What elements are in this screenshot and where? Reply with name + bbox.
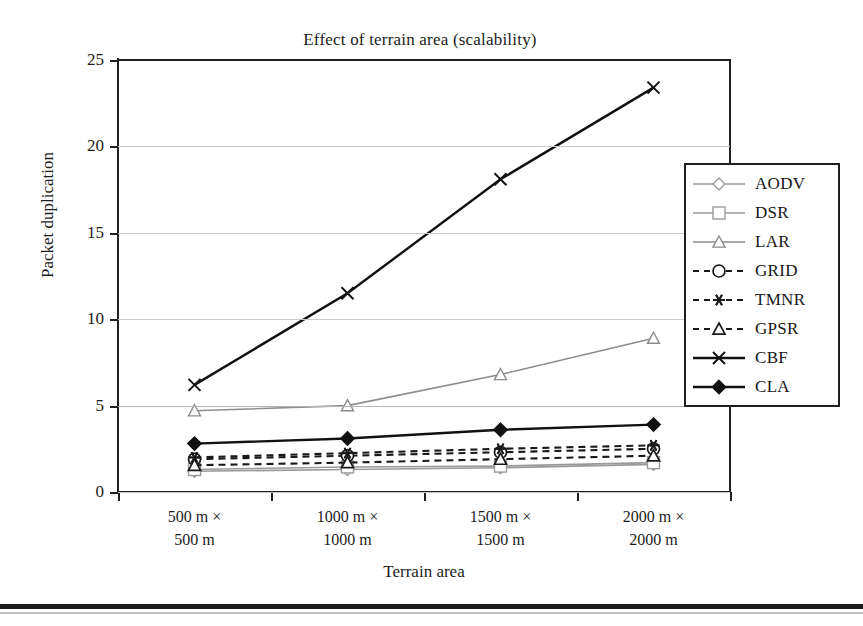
legend-item-gpsr[interactable]: GPSR bbox=[686, 314, 838, 343]
y-tick-mark-25 bbox=[110, 60, 118, 62]
series-line-lar bbox=[195, 338, 654, 411]
x-tick-label-3: 2000 m ×2000 m bbox=[574, 505, 734, 551]
legend-item-cbf[interactable]: CBF bbox=[686, 343, 838, 372]
legend-item-dsr[interactable]: DSR bbox=[686, 198, 838, 227]
legend-item-lar[interactable]: LAR bbox=[686, 227, 838, 256]
legend-key-grid bbox=[691, 260, 747, 282]
x-tick-mark-2 bbox=[424, 492, 426, 501]
legend-label-aodv: AODV bbox=[747, 174, 805, 194]
legend-item-aodv[interactable]: AODV bbox=[686, 169, 838, 198]
legend-key-cla bbox=[691, 376, 747, 398]
legend-key-gpsr bbox=[691, 318, 747, 340]
legend-item-cla[interactable]: CLA bbox=[686, 372, 838, 401]
x-tick-label-1-line-1: 1000 m bbox=[268, 528, 428, 551]
series-canvas bbox=[118, 60, 730, 492]
chart-figure: Effect of terrain area (scalability) Pac… bbox=[0, 0, 863, 604]
x-tick-label-1-line-0: 1000 m × bbox=[268, 505, 428, 528]
y-tick-mark-5 bbox=[110, 406, 118, 408]
x-tick-label-0-line-1: 500 m bbox=[115, 528, 275, 551]
marker-diamond-filled bbox=[713, 380, 726, 393]
chart-title: Effect of terrain area (scalability) bbox=[110, 30, 730, 50]
series-cla bbox=[188, 418, 660, 450]
y-tick-label-5: 5 bbox=[62, 396, 104, 416]
marker-diamond-filled bbox=[188, 437, 201, 450]
gridline-15 bbox=[118, 233, 730, 234]
x-tick-label-2-line-0: 1500 m × bbox=[421, 505, 581, 528]
gridline-0 bbox=[118, 492, 730, 493]
marker-triangle-open bbox=[713, 323, 725, 334]
legend-item-tmnr[interactable]: TMNR bbox=[686, 285, 838, 314]
legend-label-lar: LAR bbox=[747, 232, 790, 252]
legend-label-tmnr: TMNR bbox=[747, 290, 805, 310]
x-tick-label-2-line-1: 1500 m bbox=[421, 528, 581, 551]
y-tick-mark-20 bbox=[110, 146, 118, 148]
x-tick-label-1: 1000 m ×1000 m bbox=[268, 505, 428, 551]
legend-key-lar bbox=[691, 231, 747, 253]
x-tick-label-0-line-0: 500 m × bbox=[115, 505, 275, 528]
y-tick-mark-15 bbox=[110, 233, 118, 235]
marker-diamond-filled bbox=[494, 423, 507, 436]
marker-square-open bbox=[713, 207, 725, 219]
legend-label-cla: CLA bbox=[747, 377, 790, 397]
x-tick-label-0: 500 m ×500 m bbox=[115, 505, 275, 551]
series-line-cbf bbox=[195, 88, 654, 385]
page-bottom-rule bbox=[0, 604, 863, 609]
x-tick-mark-0 bbox=[118, 492, 120, 501]
marker-diamond-open bbox=[713, 178, 725, 190]
marker-cross bbox=[495, 173, 507, 185]
marker-asterisk bbox=[713, 294, 725, 304]
legend-key-aodv bbox=[691, 173, 747, 195]
legend-key-dsr bbox=[691, 202, 747, 224]
gridline-20 bbox=[118, 146, 730, 147]
x-tick-mark-1 bbox=[271, 492, 273, 501]
marker-cross bbox=[342, 287, 354, 299]
legend-key-cbf bbox=[691, 347, 747, 369]
legend-label-cbf: CBF bbox=[747, 348, 788, 368]
legend-item-grid[interactable]: GRID bbox=[686, 256, 838, 285]
y-tick-label-20: 20 bbox=[62, 136, 104, 156]
legend-label-gpsr: GPSR bbox=[747, 319, 799, 339]
x-tick-label-2: 1500 m ×1500 m bbox=[421, 505, 581, 551]
y-tick-label-0: 0 bbox=[62, 482, 104, 502]
plot-area bbox=[118, 60, 730, 492]
legend-label-dsr: DSR bbox=[747, 203, 789, 223]
x-tick-label-3-line-1: 2000 m bbox=[574, 528, 734, 551]
page-bottom-rule-secondary bbox=[0, 612, 863, 614]
x-tick-mark-3 bbox=[577, 492, 579, 501]
y-axis-title: Packet duplication bbox=[38, 105, 58, 325]
marker-cross bbox=[648, 82, 660, 94]
legend-key-tmnr bbox=[691, 289, 747, 311]
y-tick-mark-0 bbox=[110, 492, 118, 494]
marker-diamond-filled bbox=[647, 418, 660, 431]
gridline-10 bbox=[118, 319, 730, 320]
x-tick-mark-4 bbox=[730, 492, 732, 501]
x-axis-title: Terrain area bbox=[118, 562, 730, 582]
gridline-5 bbox=[118, 406, 730, 407]
series-cbf bbox=[189, 82, 660, 391]
y-tick-mark-10 bbox=[110, 319, 118, 321]
x-tick-label-3-line-0: 2000 m × bbox=[574, 505, 734, 528]
series-line-cla bbox=[195, 425, 654, 444]
y-tick-label-25: 25 bbox=[62, 50, 104, 70]
y-tick-label-15: 15 bbox=[62, 223, 104, 243]
marker-circle-open bbox=[713, 265, 725, 277]
figure-page: Effect of terrain area (scalability) Pac… bbox=[0, 0, 863, 626]
chart-legend: AODVDSRLARGRIDTMNRGPSRCBFCLA bbox=[684, 163, 840, 407]
y-tick-label-10: 10 bbox=[62, 309, 104, 329]
marker-cross bbox=[189, 379, 201, 391]
series-lar bbox=[189, 332, 660, 416]
marker-diamond-filled bbox=[341, 432, 354, 445]
series-tmnr bbox=[189, 440, 660, 462]
legend-label-grid: GRID bbox=[747, 261, 798, 281]
marker-triangle-open bbox=[648, 332, 660, 343]
